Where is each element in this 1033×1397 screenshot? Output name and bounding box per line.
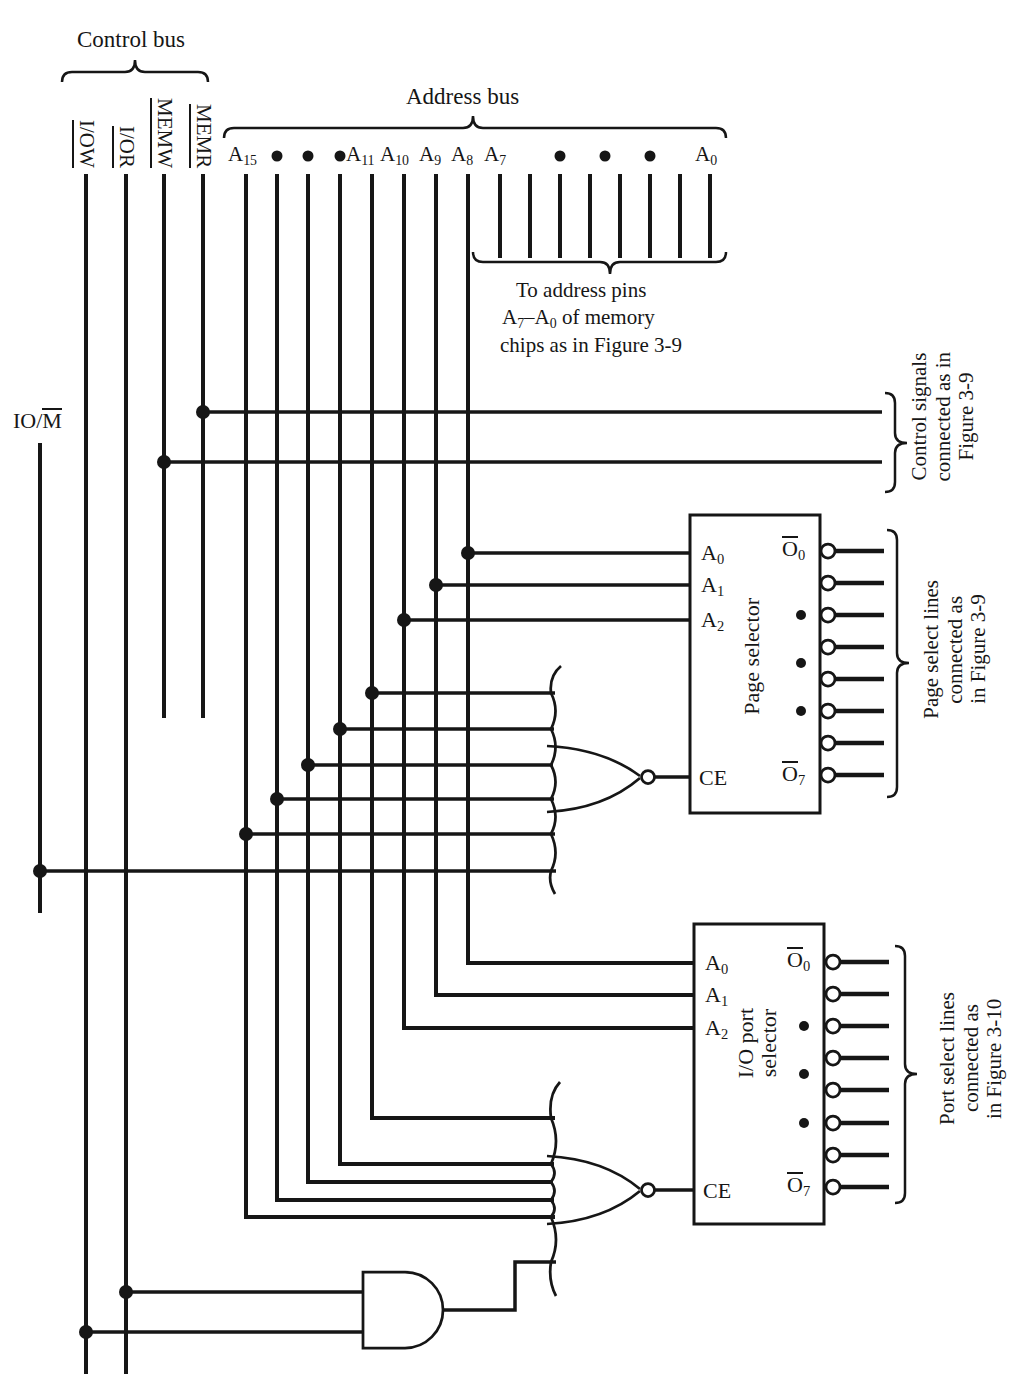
control-signals-note: Control signals connected as in Figure 3… xyxy=(908,352,979,481)
page-selector-label: Page selector xyxy=(740,598,763,715)
page-ellipsis-dots xyxy=(796,610,806,716)
page-pin-a2: A2 xyxy=(701,608,724,635)
memory-pins-brace xyxy=(473,252,726,274)
address-bus-title: Address bus xyxy=(406,85,519,109)
nor-gate-page-input-wing xyxy=(550,666,561,894)
memory-note-line1: To address pins xyxy=(516,279,646,301)
a10-label: A10 xyxy=(380,143,409,169)
port-output-bubbles xyxy=(826,955,840,1194)
braces xyxy=(62,60,917,1203)
page-pin-ce: CE xyxy=(699,766,727,789)
nor-gate-page-bubble xyxy=(642,771,655,784)
port-select-note: Port select lines connected as in Figure… xyxy=(936,992,1007,1125)
control-bus-title: Control bus xyxy=(77,28,185,52)
nor-gate-port-bubble xyxy=(642,1184,655,1197)
nor-gate-port xyxy=(547,1082,655,1296)
page-output-lines xyxy=(836,551,884,775)
port-pin-a1: A1 xyxy=(705,983,728,1010)
control-signals-brace xyxy=(885,393,907,492)
memr-label: MEMR xyxy=(189,104,215,168)
port-output-lines xyxy=(841,962,889,1187)
iow-label: I/OW xyxy=(72,120,98,168)
page-pin-a0: A0 xyxy=(701,541,724,568)
and-gate xyxy=(363,1272,443,1348)
control-bus-brace xyxy=(62,60,208,82)
memory-note-line2: A7–A0 of memory xyxy=(502,306,655,332)
port-out-o0: O0 xyxy=(787,947,810,975)
page-out-o7: O7 xyxy=(782,761,805,789)
a15-label: A15 xyxy=(228,143,257,169)
a10-wire xyxy=(404,174,694,1028)
io-m-label: IO/M xyxy=(13,408,62,432)
ior-label: I/OR xyxy=(112,126,138,168)
address-bus-brace xyxy=(224,116,726,138)
page-output-bubbles xyxy=(821,544,835,782)
nor-gate-page xyxy=(547,666,655,894)
port-out-o7: O7 xyxy=(787,1172,810,1200)
page-select-brace xyxy=(887,530,909,797)
and-output-step xyxy=(443,1262,556,1310)
nor-gate-port-input-wing xyxy=(550,1082,560,1296)
page-select-note: Page select lines connected as in Figure… xyxy=(920,580,991,719)
page-out-o0: O0 xyxy=(782,536,805,564)
wiring-layer xyxy=(0,0,1033,1397)
page-pin-a1: A1 xyxy=(701,573,724,600)
a9-label: A9 xyxy=(419,143,441,169)
address-stub-wires xyxy=(500,174,710,258)
a7-label: A7 xyxy=(484,143,506,169)
port-pin-a0: A0 xyxy=(705,951,728,978)
memw-label: MEMW xyxy=(150,98,176,168)
control-bus-wires xyxy=(40,174,203,1374)
tap-wires xyxy=(40,412,882,1332)
a11-label: A11 xyxy=(346,143,375,169)
port-pin-a2: A2 xyxy=(705,1016,728,1043)
port-pin-ce: CE xyxy=(703,1179,731,1202)
port-selector-label: I/O port selector xyxy=(734,1008,780,1078)
circuit-diagram: Control bus I/OW I/OR MEMW MEMR IO/M Add… xyxy=(0,0,1033,1397)
a8-label: A8 xyxy=(451,143,473,169)
port-select-brace xyxy=(895,946,917,1203)
port-ellipsis-dots xyxy=(799,1021,809,1128)
a0-label: A0 xyxy=(695,143,717,169)
memory-note-line3: chips as in Figure 3-9 xyxy=(500,334,682,356)
